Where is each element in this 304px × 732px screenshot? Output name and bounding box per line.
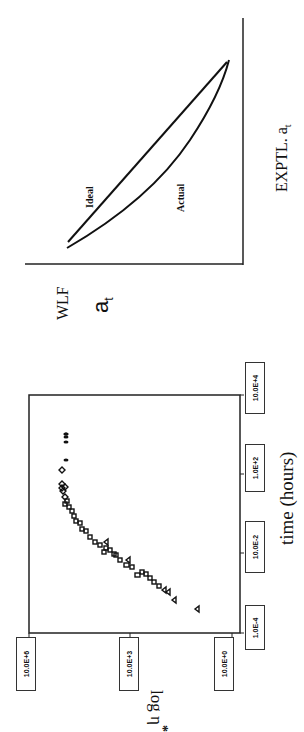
bottom-x-axis-title: time (hours): [276, 452, 298, 545]
bottom-y-axis-superscript: *: [155, 725, 170, 732]
top-x-axis-label: EXPTL. at: [273, 124, 293, 192]
top-y-axis-symbol: a: [88, 301, 113, 313]
y-tick-text: 10.0E+6: [23, 651, 30, 677]
x-tick-label-1e2: 1.0E+2: [245, 444, 265, 492]
y-tick-label-10e3: 10.0E+3: [119, 637, 139, 691]
top-x-axis-text: EXPTL. a: [273, 127, 290, 192]
top-x-axis-subscript: t: [282, 124, 293, 127]
top-y-axis-label-at: at: [88, 297, 116, 313]
bottom-y-axis-title: log η*: [146, 690, 170, 732]
x-tick-text: 1.0E+2: [252, 457, 259, 479]
ideal-label: Ideal: [84, 186, 95, 208]
top-y-axis-label-wlf: WLF: [54, 286, 72, 320]
x-tick-label-10e-2: 10.0E-2: [245, 521, 265, 573]
y-tick-label-10e6: 10.0E+6: [16, 637, 36, 691]
top-y-axis-subscript: t: [102, 297, 116, 300]
x-tick-text: 1.0E-4: [252, 617, 259, 638]
y-tick-text: 10.0E+0: [221, 651, 228, 677]
scatter-points: [59, 467, 199, 612]
y-tick-label-10e0: 10.0E+0: [214, 637, 234, 691]
y-tick-text: 10.0E+3: [126, 651, 133, 677]
ideal-line: [68, 62, 227, 242]
x-tick-text: 10.0E-2: [252, 535, 259, 560]
bottom-plot-frame: [29, 395, 240, 633]
x-tick-label-1e-4: 1.0E-4: [245, 605, 265, 650]
actual-label: Actual: [175, 184, 186, 212]
bottom-y-axis-text: log η: [147, 690, 166, 725]
x-tick-label-10e4: 10.0E+4: [245, 362, 265, 414]
x-tick-text: 10.0E+4: [252, 375, 259, 401]
scatter-points-filled: [64, 432, 69, 461]
